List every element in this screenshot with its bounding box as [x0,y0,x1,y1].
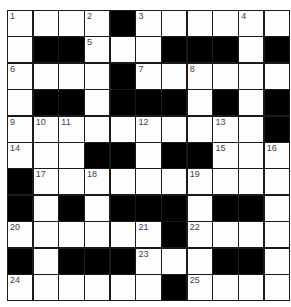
answer-cell[interactable] [34,249,58,274]
answer-cell[interactable]: 21 [136,222,160,247]
answer-cell[interactable] [59,11,83,36]
clue-number: 16 [267,144,277,153]
answer-cell[interactable] [136,37,160,62]
answer-cell[interactable] [213,64,237,89]
answer-cell[interactable]: 19 [188,169,212,194]
answer-cell[interactable]: 14 [8,143,32,168]
answer-cell[interactable] [85,275,109,300]
black-square [239,249,263,274]
answer-cell[interactable]: 20 [8,222,32,247]
answer-cell[interactable] [162,11,186,36]
answer-cell[interactable] [34,222,58,247]
black-square [162,196,186,221]
answer-cell[interactable] [162,64,186,89]
answer-cell[interactable] [239,64,263,89]
answer-cell[interactable] [265,222,289,247]
answer-cell[interactable] [111,169,135,194]
answer-cell[interactable] [59,275,83,300]
answer-cell[interactable] [213,169,237,194]
answer-cell[interactable]: 24 [8,275,32,300]
answer-cell[interactable]: 5 [85,37,109,62]
clue-number: 12 [138,118,148,127]
answer-cell[interactable]: 10 [34,117,58,142]
answer-cell[interactable]: 23 [136,249,160,274]
answer-cell[interactable] [239,37,263,62]
black-square [111,143,135,168]
answer-cell[interactable] [59,222,83,247]
answer-cell[interactable] [34,143,58,168]
answer-cell[interactable] [162,169,186,194]
answer-cell[interactable] [265,11,289,36]
answer-cell[interactable] [85,222,109,247]
answer-cell[interactable]: 15 [213,143,237,168]
answer-cell[interactable]: 7 [136,64,160,89]
answer-cell[interactable]: 11 [59,117,83,142]
answer-cell[interactable]: 13 [213,117,237,142]
answer-cell[interactable] [239,275,263,300]
black-square [213,196,237,221]
black-square [111,249,135,274]
black-square [188,37,212,62]
answer-cell[interactable]: 25 [188,275,212,300]
black-square [111,64,135,89]
answer-cell[interactable] [111,275,135,300]
answer-cell[interactable] [265,249,289,274]
answer-cell[interactable] [239,143,263,168]
answer-cell[interactable]: 16 [265,143,289,168]
answer-cell[interactable] [188,196,212,221]
answer-cell[interactable] [239,90,263,115]
answer-cell[interactable]: 4 [239,11,263,36]
answer-cell[interactable] [265,169,289,194]
answer-cell[interactable]: 2 [85,11,109,36]
answer-cell[interactable] [111,222,135,247]
answer-cell[interactable]: 8 [188,64,212,89]
answer-cell[interactable] [34,11,58,36]
answer-cell[interactable] [188,11,212,36]
answer-cell[interactable] [34,275,58,300]
answer-cell[interactable] [265,275,289,300]
answer-cell[interactable] [111,37,135,62]
answer-cell[interactable] [111,117,135,142]
answer-cell[interactable] [136,169,160,194]
answer-cell[interactable]: 9 [8,117,32,142]
answer-cell[interactable] [85,196,109,221]
answer-cell[interactable]: 6 [8,64,32,89]
answer-cell[interactable] [213,275,237,300]
answer-cell[interactable]: 22 [188,222,212,247]
clue-number: 18 [87,170,97,179]
answer-cell[interactable] [162,117,186,142]
answer-cell[interactable] [239,222,263,247]
answer-cell[interactable] [162,249,186,274]
answer-cell[interactable] [265,196,289,221]
answer-cell[interactable] [213,11,237,36]
answer-cell[interactable] [239,117,263,142]
answer-cell[interactable] [8,37,32,62]
answer-cell[interactable] [188,117,212,142]
black-square [265,90,289,115]
answer-cell[interactable] [239,169,263,194]
answer-cell[interactable] [188,249,212,274]
answer-cell[interactable] [136,143,160,168]
answer-cell[interactable]: 1 [8,11,32,36]
answer-cell[interactable] [85,117,109,142]
answer-cell[interactable] [136,275,160,300]
clue-number: 8 [190,65,195,74]
answer-cell[interactable]: 18 [85,169,109,194]
answer-cell[interactable] [85,90,109,115]
clue-number: 1 [10,12,15,21]
answer-cell[interactable] [59,143,83,168]
answer-cell[interactable] [59,169,83,194]
answer-cell[interactable]: 17 [34,169,58,194]
answer-cell[interactable] [265,64,289,89]
answer-cell[interactable] [213,222,237,247]
answer-cell[interactable] [85,64,109,89]
answer-cell[interactable] [8,90,32,115]
black-square [8,196,32,221]
answer-cell[interactable] [34,64,58,89]
answer-cell[interactable] [188,90,212,115]
clue-number: 14 [10,144,20,153]
answer-cell[interactable]: 12 [136,117,160,142]
answer-cell[interactable]: 3 [136,11,160,36]
answer-cell[interactable] [59,64,83,89]
answer-cell[interactable] [34,196,58,221]
